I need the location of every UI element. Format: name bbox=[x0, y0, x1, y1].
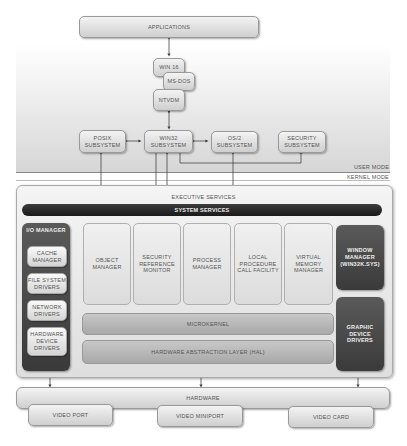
executive-services-label: EXECUTIVE SERVICES bbox=[16, 194, 391, 201]
video-card: VIDEO CARD bbox=[288, 406, 374, 428]
os2-subsystem: OS/2 SUBSYSTEM bbox=[211, 131, 258, 153]
local-procedure-call-facility: LOCAL PROCEDURE CALL FACILITY bbox=[234, 223, 282, 305]
hal-bar: HARDWARE ABSTRACTION LAYER (HAL) bbox=[82, 340, 334, 364]
security-subsystem: SECURITY SUBSYSTEM bbox=[278, 131, 326, 153]
win32-subsystem: WIN32 SUBSYSTEM bbox=[144, 130, 193, 153]
process-manager: PROCESS MANAGER bbox=[183, 223, 231, 305]
window-manager: WINDOW MANAGER (WIN32K.SYS) bbox=[336, 225, 384, 290]
video-miniport: VIDEO MINIPORT bbox=[157, 405, 243, 427]
hardware-device-drivers: HARDWARE DEVICE DRIVERS bbox=[27, 327, 67, 356]
file-system-drivers: FILE SYSTEM DRIVERS bbox=[27, 273, 67, 294]
io-manager-title: I/O MANAGER bbox=[22, 227, 70, 234]
virtual-memory-manager: VIRTUAL MEMORY MANAGER bbox=[284, 223, 333, 305]
security-reference-monitor: SECURITY REFERENCE MONITOR bbox=[133, 223, 181, 305]
applications-box: APPLICATIONS bbox=[79, 16, 259, 38]
network-drivers: NETWORK DRIVERS bbox=[27, 300, 67, 321]
posix-subsystem: POSIX SUBSYSTEM bbox=[79, 130, 126, 153]
cache-manager: CACHE MANAGER bbox=[27, 246, 67, 267]
ntvdm-box: NTVDM bbox=[153, 89, 185, 111]
object-manager: OBJECT MANAGER bbox=[83, 223, 131, 305]
microkernel-bar: MICROKERNEL bbox=[82, 313, 334, 335]
system-services-bar: SYSTEM SERVICES bbox=[22, 204, 382, 216]
video-port: VIDEO PORT bbox=[28, 404, 113, 426]
graphic-device-drivers: GRAPHIC DEVICE DRIVERS bbox=[336, 297, 384, 371]
